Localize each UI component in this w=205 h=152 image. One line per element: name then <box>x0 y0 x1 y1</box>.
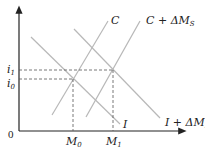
diagram-canvas: 0 i1 i0 M0 M1 C C + ΔMS I I + ΔMD <box>0 0 205 152</box>
label-c: C <box>111 14 120 27</box>
x-tick-m1: M1 <box>105 135 122 149</box>
y-tick-i1: i1 <box>7 63 15 77</box>
y-tick-i0: i0 <box>7 77 16 91</box>
label-c-plus-delta-ms: C + ΔMS <box>146 14 195 28</box>
label-i: I <box>122 118 128 131</box>
curve-i-plus-delta-md <box>74 29 160 118</box>
x-tick-m0: M0 <box>65 135 82 149</box>
label-i-plus-delta-md: I + ΔMD <box>164 116 205 130</box>
origin-label: 0 <box>8 128 14 140</box>
